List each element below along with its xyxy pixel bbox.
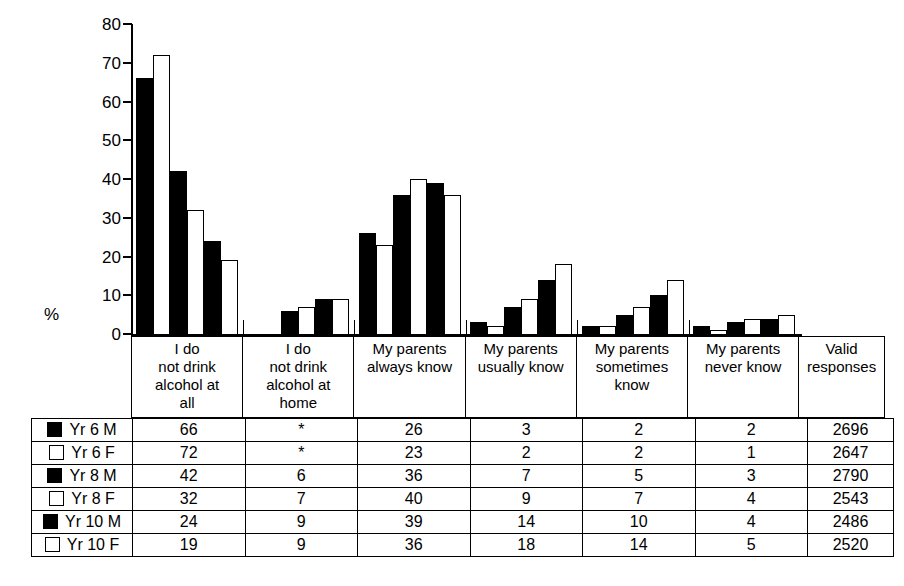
bar-group-bars xyxy=(247,24,349,334)
category-header-cell: Validresponses xyxy=(799,337,884,417)
bar xyxy=(221,260,238,334)
y-tick-label: 40 xyxy=(81,171,121,188)
bar-group xyxy=(243,24,355,334)
legend-cell: Yr 10 F xyxy=(32,534,133,557)
data-cell: 1 xyxy=(695,442,808,465)
valid-responses-cell: 2790 xyxy=(808,465,894,488)
category-header-cell: My parentsusually know xyxy=(466,337,577,417)
bar-group xyxy=(689,24,801,334)
category-header-line: I do xyxy=(132,340,242,358)
y-axis-ticks: 80706050403020100 xyxy=(76,24,132,334)
category-header-line: never know xyxy=(688,358,798,376)
y-tick-label: 0 xyxy=(81,326,121,343)
table-row: Yr 8 F327409742543 xyxy=(32,488,894,511)
y-tick-label: 70 xyxy=(81,54,121,71)
bar xyxy=(693,326,710,334)
bar-group-bars xyxy=(582,24,684,334)
legend-cell: Yr 6 F xyxy=(32,442,133,465)
data-cell: 7 xyxy=(583,488,696,511)
data-cell: 32 xyxy=(133,488,246,511)
group-divider-tick xyxy=(354,320,355,334)
category-header-cell: I donot drinkalcohol athome xyxy=(243,337,354,417)
legend-series-label: Yr 6 F xyxy=(71,444,115,461)
data-cell: 18 xyxy=(470,534,583,557)
category-header-line: I do xyxy=(243,340,353,358)
bar xyxy=(315,299,332,334)
legend-cell: Yr 10 M xyxy=(32,511,133,534)
bar xyxy=(633,307,650,334)
bar xyxy=(376,245,393,334)
y-tick-label: 30 xyxy=(81,209,121,226)
bar-group-bars xyxy=(470,24,572,334)
bar xyxy=(487,326,504,334)
group-divider-tick xyxy=(243,320,244,334)
legend-series-label: Yr 8 M xyxy=(69,467,116,484)
data-cell: 23 xyxy=(358,442,471,465)
y-tick-label: 60 xyxy=(81,93,121,110)
category-header-cell: I donot drinkalcohol atall xyxy=(132,337,243,417)
category-header-line: not drink xyxy=(243,358,353,376)
bar xyxy=(761,319,778,335)
category-header-line: My parents xyxy=(688,340,798,358)
data-cell: 36 xyxy=(358,465,471,488)
data-cell: 36 xyxy=(358,534,471,557)
table-row: Yr 8 M426367532790 xyxy=(32,465,894,488)
category-header-line: My parents xyxy=(354,340,464,358)
data-cell: 24 xyxy=(133,511,246,534)
bar-group xyxy=(466,24,578,334)
legend-cell: Yr 8 F xyxy=(32,488,133,511)
bar-group-bars xyxy=(136,24,238,334)
y-tick-label: 80 xyxy=(81,16,121,33)
data-cell: 14 xyxy=(583,534,696,557)
valid-responses-cell: 2647 xyxy=(808,442,894,465)
bar xyxy=(153,55,170,334)
bar xyxy=(744,319,761,335)
category-header-line: Valid xyxy=(799,340,884,358)
bar xyxy=(359,233,376,334)
legend-series-label: Yr 6 M xyxy=(69,421,116,438)
category-header-cell: My parentsalways know xyxy=(354,337,465,417)
bar xyxy=(616,315,633,334)
data-cell: 5 xyxy=(583,465,696,488)
legend-series-label: Yr 10 M xyxy=(65,513,121,530)
chart-figure: % 80706050403020100 I donot drinkalcohol… xyxy=(0,0,904,586)
valid-responses-cell: 2486 xyxy=(808,511,894,534)
category-header-line: responses xyxy=(799,358,884,376)
group-divider-tick xyxy=(689,320,690,334)
y-tick-label: 50 xyxy=(81,132,121,149)
bar-group-bars xyxy=(693,24,795,334)
data-cell: 7 xyxy=(245,488,358,511)
category-header-line: not drink xyxy=(132,358,242,376)
data-cell: 9 xyxy=(245,534,358,557)
group-divider-tick xyxy=(577,320,578,334)
data-cell: 6 xyxy=(245,465,358,488)
data-cell: 4 xyxy=(695,511,808,534)
bar xyxy=(187,210,204,334)
legend-swatch-icon xyxy=(49,445,64,460)
table-row: Yr 10 F19936181452520 xyxy=(32,534,894,557)
legend-swatch-icon xyxy=(47,468,62,483)
category-header-line: all xyxy=(132,394,242,412)
data-cell: 3 xyxy=(695,465,808,488)
bar-chart: % 80706050403020100 xyxy=(0,0,904,340)
legend-swatch-icon xyxy=(45,537,60,552)
legend-swatch-icon xyxy=(49,491,64,506)
data-table-body: Yr 6 M66*263222696Yr 6 F72*232212647Yr 8… xyxy=(32,419,894,557)
valid-responses-cell: 2520 xyxy=(808,534,894,557)
bar xyxy=(427,183,444,334)
category-header-row: I donot drinkalcohol atallI donot drinka… xyxy=(131,336,885,418)
bar xyxy=(332,299,349,334)
data-cell: 9 xyxy=(245,511,358,534)
bar xyxy=(410,179,427,334)
data-cell: 2 xyxy=(583,442,696,465)
y-tick-label: 10 xyxy=(81,287,121,304)
valid-responses-cell: 2543 xyxy=(808,488,894,511)
legend-swatch-icon xyxy=(43,514,58,529)
category-header-line: alcohol at xyxy=(243,376,353,394)
bar xyxy=(538,280,555,334)
bar-group xyxy=(577,24,689,334)
y-tick-label: 20 xyxy=(81,248,121,265)
table-row: Yr 6 M66*263222696 xyxy=(32,419,894,442)
bar xyxy=(778,315,795,334)
data-cell: 3 xyxy=(470,419,583,442)
